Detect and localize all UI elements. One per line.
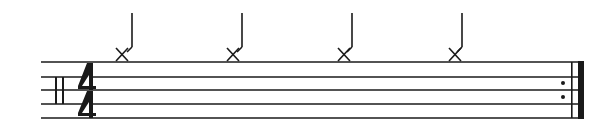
note-2 bbox=[227, 13, 242, 61]
note-4 bbox=[449, 13, 462, 61]
repeat-dot bbox=[561, 95, 565, 99]
thick-barline bbox=[578, 61, 584, 119]
repeat-dot bbox=[561, 81, 565, 85]
note-3 bbox=[338, 13, 352, 61]
note-1 bbox=[116, 13, 132, 61]
staff bbox=[41, 62, 584, 118]
thin-barline bbox=[571, 62, 573, 118]
